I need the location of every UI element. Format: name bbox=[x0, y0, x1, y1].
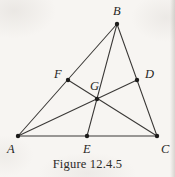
point-label-A: A bbox=[7, 143, 15, 156]
point-label-C: C bbox=[161, 143, 169, 156]
point-label-E: E bbox=[83, 143, 91, 156]
point-label-G: G bbox=[90, 80, 99, 93]
point-B bbox=[115, 22, 119, 26]
point-E bbox=[85, 134, 89, 138]
point-G bbox=[95, 97, 99, 101]
median-CF bbox=[68, 80, 157, 136]
figure-container: A B C D E F G Figure 12.4.5 bbox=[0, 0, 175, 177]
point-C bbox=[155, 134, 159, 138]
median-AD bbox=[18, 80, 137, 136]
point-label-D: D bbox=[145, 68, 154, 81]
figure-caption: Figure 12.4.5 bbox=[0, 157, 175, 172]
point-A bbox=[16, 134, 20, 138]
point-D bbox=[135, 78, 139, 82]
point-label-B: B bbox=[113, 5, 121, 18]
points-group bbox=[16, 22, 159, 138]
point-F bbox=[66, 78, 70, 82]
point-label-F: F bbox=[54, 68, 62, 81]
